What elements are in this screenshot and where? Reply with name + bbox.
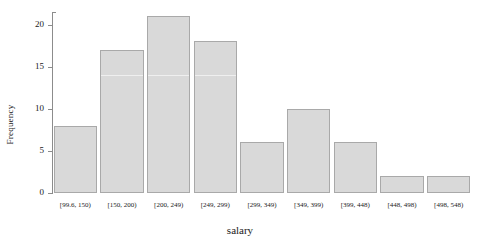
render-artifact-line — [148, 75, 190, 76]
y-axis-tick-label: 5 — [18, 145, 44, 155]
x-axis-tick-label: [150, 200) — [99, 201, 146, 209]
x-axis-tick-label: [448, 498) — [379, 201, 426, 209]
x-axis-tick-label: [200, 249) — [145, 201, 192, 209]
x-axis-tick-label: [399, 448) — [332, 201, 379, 209]
render-artifact-line — [101, 75, 143, 76]
histogram-bar — [334, 142, 378, 193]
histogram-bar — [54, 126, 98, 193]
histogram-bar — [147, 16, 191, 193]
x-axis-tick-label: [249, 299) — [192, 201, 239, 209]
y-axis-tick-label: 10 — [18, 103, 44, 113]
y-axis-tick-label: 0 — [18, 187, 44, 197]
x-axis-tick-label: [99.6, 150) — [52, 201, 99, 209]
y-axis-top-cap — [52, 12, 56, 13]
histogram-chart: Frequency 05101520 [99.6, 150)[150, 200)… — [0, 0, 480, 249]
histogram-bar — [194, 41, 238, 193]
chart-title — [0, 0, 480, 4]
histogram-bar — [287, 109, 331, 193]
y-axis-tick-label: 20 — [18, 19, 44, 29]
x-axis-label: salary — [0, 224, 480, 236]
x-axis-tick-label: [349, 399) — [285, 201, 332, 209]
render-artifact-line — [195, 75, 237, 76]
histogram-bar — [380, 176, 424, 193]
y-axis-tick-label: 15 — [18, 61, 44, 71]
histogram-bar — [100, 50, 144, 193]
histogram-bar — [240, 142, 284, 193]
histogram-bar — [427, 176, 471, 193]
x-axis-tick-label: [299, 349) — [239, 201, 286, 209]
x-axis-tick-label: [498, 548) — [425, 201, 472, 209]
y-axis-label: Frequency — [2, 0, 18, 249]
